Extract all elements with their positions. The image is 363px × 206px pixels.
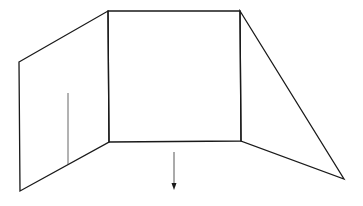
center-panel <box>108 11 241 142</box>
folding-screen-diagram <box>0 0 363 206</box>
right-panel <box>240 11 344 179</box>
down-arrow-icon <box>172 152 177 190</box>
left-panel <box>19 11 109 191</box>
